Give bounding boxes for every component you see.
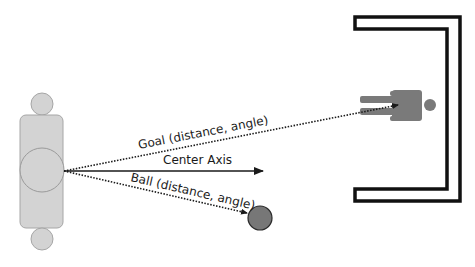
goal-vector-label: Goal (distance, angle) — [137, 113, 270, 152]
robot-core-circle — [20, 148, 64, 192]
robot-figure — [20, 93, 64, 250]
diagram-canvas: Goal (distance, angle) Center Axis Ball … — [0, 0, 475, 267]
robot-top-head-icon — [31, 93, 53, 115]
center-axis-label: Center Axis — [163, 153, 232, 167]
ball-vector-label: Ball (distance, angle) — [129, 170, 256, 212]
robot-bottom-head-icon — [31, 228, 53, 250]
